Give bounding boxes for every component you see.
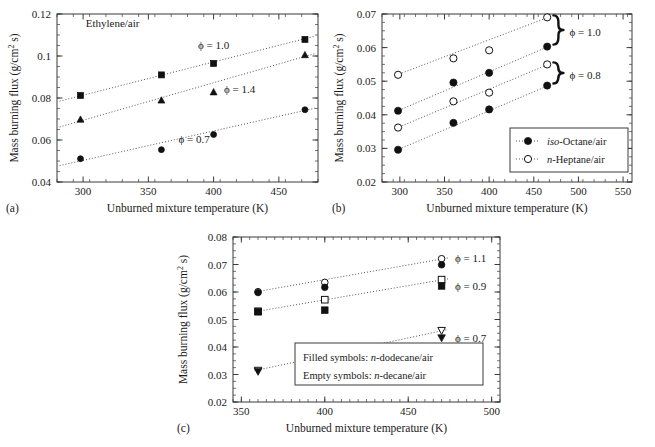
legend-box — [510, 128, 628, 172]
data-point-filled-circle — [394, 107, 401, 114]
y-tick-label: 0.07 — [357, 8, 377, 20]
y-tick-label: 0.05 — [208, 314, 228, 326]
phi-annotation: ϕ = 0.8 — [569, 69, 601, 81]
panel-b: 3003504004505005500.020.030.040.050.060.… — [330, 0, 655, 225]
data-point-filled-circle — [544, 43, 551, 50]
data-point-filled-square — [211, 60, 217, 66]
data-point-filled-circle — [544, 82, 551, 89]
panel-letter: (b) — [332, 202, 346, 215]
data-point-open-circle — [486, 47, 493, 54]
legend-marker — [524, 137, 531, 144]
panel-a-plot: 3003504004500.040.060.080.10.12Unburned … — [0, 0, 330, 225]
y-tick-label: 0.02 — [208, 396, 227, 408]
x-tick-label: 350 — [233, 405, 250, 417]
data-point-filled-circle — [211, 132, 217, 138]
panel-letter: (a) — [6, 202, 19, 215]
y-tick-label: 0.07 — [208, 259, 228, 271]
panel-a: 3003504004500.040.060.080.10.12Unburned … — [0, 0, 330, 225]
data-point-open-square — [321, 296, 328, 303]
x-tick-label: 300 — [75, 185, 92, 197]
data-point-open-circle — [394, 71, 401, 78]
data-point-filled-circle — [486, 69, 493, 76]
phi-annotation: ϕ = 0.7 — [178, 133, 210, 145]
data-point-filled-circle — [255, 289, 262, 296]
data-point-open-circle — [486, 89, 493, 96]
y-axis-label: Mass burning flux (g/cm2 s) — [7, 33, 22, 162]
y-axis-label: Mass burning flux (g/cm2 s) — [332, 33, 347, 162]
legend-label: n-Heptane/air — [547, 154, 605, 165]
data-point-filled-square — [302, 36, 308, 42]
data-point-filled-circle — [524, 137, 531, 144]
x-tick-label: 500 — [483, 405, 500, 417]
data-point-filled-circle — [450, 79, 457, 86]
y-tick-label: 0.06 — [357, 42, 377, 54]
panel-letter: (c) — [177, 422, 190, 435]
panel-c-plot: 3504004505000.020.030.040.050.060.070.08… — [155, 225, 555, 447]
y-tick-label: 0.04 — [357, 109, 377, 121]
phi-annotation: ϕ = 1.0 — [569, 26, 601, 38]
x-tick-label: 400 — [481, 185, 498, 197]
data-point-filled-circle — [158, 147, 164, 153]
y-tick-label: 0.08 — [32, 92, 52, 104]
legend-label: iso-Octane/air — [547, 136, 607, 147]
data-point-filled-square — [255, 309, 262, 316]
data-point-open-circle — [544, 14, 551, 21]
x-axis-label: Unburned mixture temperature (K) — [286, 422, 447, 435]
panel-b-plot: 3003504004505005500.020.030.040.050.060.… — [330, 0, 655, 225]
phi-annotation: ϕ = 0.7 — [455, 332, 487, 344]
phi-annotation: ϕ = 1.4 — [224, 83, 256, 95]
data-point-filled-circle — [438, 261, 445, 268]
x-tick-label: 350 — [436, 185, 453, 197]
y-tick-label: 0.08 — [208, 231, 228, 243]
x-tick-label: 400 — [205, 185, 222, 197]
data-point-open-circle — [544, 61, 551, 68]
data-point-open-circle — [394, 124, 401, 131]
y-tick-label: 0.12 — [32, 8, 51, 20]
x-axis-label: Unburned mixture temperature (K) — [426, 202, 587, 215]
y-tick-label: 0.05 — [357, 75, 377, 87]
data-point-filled-square — [77, 92, 83, 98]
x-tick-label: 550 — [615, 185, 632, 197]
y-axis-label: Mass burning flux (g/cm2 s) — [176, 255, 191, 384]
panel-c: 3504004505000.020.030.040.050.060.070.08… — [155, 225, 555, 447]
data-point-filled-circle — [394, 146, 401, 153]
y-tick-label: 0.06 — [32, 134, 52, 146]
data-point-filled-square — [438, 283, 445, 290]
y-tick-label: 0.1 — [37, 50, 51, 62]
data-point-filled-circle — [450, 119, 457, 126]
x-tick-label: 300 — [392, 185, 409, 197]
y-tick-label: 0.03 — [357, 142, 377, 154]
data-point-open-circle — [438, 255, 445, 262]
phi-annotation: ϕ = 0.9 — [455, 280, 487, 292]
y-tick-label: 0.06 — [208, 286, 228, 298]
data-point-open-circle — [450, 98, 457, 105]
x-tick-label: 500 — [570, 185, 587, 197]
data-point-filled-circle — [77, 156, 83, 162]
legend-label: Empty symbols: n-decane/air — [303, 370, 427, 381]
panel-note: Ethylene/air — [86, 17, 140, 29]
data-point-filled-square — [158, 72, 164, 78]
data-point-filled-circle — [486, 106, 493, 113]
phi-annotation: ϕ = 1.0 — [198, 39, 230, 51]
x-axis-label: Unburned mixture temperature (K) — [107, 202, 268, 215]
data-point-filled-circle — [321, 284, 328, 291]
plot-frame — [57, 14, 318, 182]
data-point-filled-square — [321, 307, 328, 314]
x-tick-label: 400 — [317, 405, 334, 417]
y-tick-label: 0.04 — [32, 176, 52, 188]
y-tick-label: 0.03 — [208, 369, 228, 381]
y-tick-label: 0.02 — [357, 176, 376, 188]
data-point-open-circle — [450, 55, 457, 62]
legend-label: Filled symbols: n-dodecane/air — [303, 352, 434, 363]
data-point-open-square — [438, 276, 445, 283]
y-tick-label: 0.04 — [208, 341, 228, 353]
x-tick-label: 450 — [400, 405, 417, 417]
x-tick-label: 450 — [526, 185, 543, 197]
x-tick-label: 450 — [271, 185, 288, 197]
phi-annotation: ϕ = 1.1 — [455, 252, 486, 264]
data-point-open-circle — [524, 155, 531, 162]
x-tick-label: 350 — [140, 185, 157, 197]
legend-marker — [524, 155, 531, 162]
data-point-filled-circle — [302, 107, 308, 113]
